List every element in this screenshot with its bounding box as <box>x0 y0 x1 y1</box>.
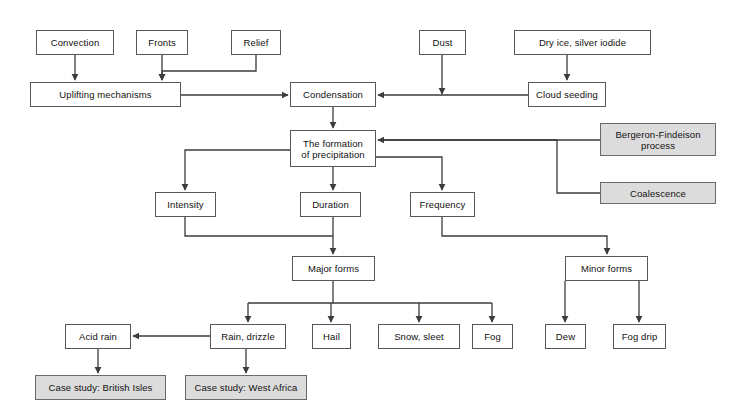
flowchart-canvas: ConvectionFrontsReliefDustDry ice, silve… <box>0 0 743 416</box>
node-label-intensity: Intensity <box>164 199 206 210</box>
node-label-minor-forms: Minor forms <box>578 263 635 274</box>
node-case-british[interactable]: Case study: British Isles <box>35 375 166 400</box>
edge-formation-to-intensity <box>185 150 290 190</box>
node-label-dust: Dust <box>430 37 456 48</box>
edge-relief-to-uplifting <box>162 55 256 80</box>
node-convection[interactable]: Convection <box>36 30 114 55</box>
node-label-acid-rain: Acid rain <box>76 331 120 342</box>
node-major-forms[interactable]: Major forms <box>292 256 375 281</box>
node-intensity[interactable]: Intensity <box>155 192 216 217</box>
node-fog-drip[interactable]: Fog drip <box>613 324 666 349</box>
node-formation[interactable]: The formationof precipitation <box>290 130 376 167</box>
node-label-uplifting: Uplifting mechanisms <box>56 89 154 100</box>
edge-frequency-to-minorforms <box>442 217 607 254</box>
node-cloud-seed[interactable]: Cloud seeding <box>528 82 606 107</box>
node-label-frequency: Frequency <box>417 199 469 210</box>
connector-layer <box>0 0 743 416</box>
node-rain-drizzle[interactable]: Rain, drizzle <box>210 324 286 349</box>
edge-formation-to-frequency <box>376 157 442 190</box>
edge-intensity-to-majorforms <box>185 217 333 236</box>
node-coalescence[interactable]: Coalescence <box>600 182 716 204</box>
node-label-fronts: Fronts <box>145 37 179 48</box>
node-duration[interactable]: Duration <box>300 192 361 217</box>
node-label-bergeron: Bergeron-Findeisonprocess <box>612 129 703 151</box>
node-hail[interactable]: Hail <box>312 324 351 349</box>
node-label-condensation: Condensation <box>300 89 366 100</box>
node-label-duration: Duration <box>309 199 352 210</box>
node-relief[interactable]: Relief <box>231 30 281 55</box>
node-dust[interactable]: Dust <box>419 30 466 55</box>
node-label-case-africa: Case study: West Africa <box>192 382 301 393</box>
node-fog[interactable]: Fog <box>472 324 513 349</box>
node-label-fog-drip: Fog drip <box>619 331 661 342</box>
node-label-relief: Relief <box>241 37 272 48</box>
node-snow-sleet[interactable]: Snow, sleet <box>378 324 460 349</box>
node-label-rain-drizzle: Rain, drizzle <box>218 331 278 342</box>
node-label-hail: Hail <box>320 331 343 342</box>
node-fronts[interactable]: Fronts <box>136 30 188 55</box>
node-case-africa[interactable]: Case study: West Africa <box>185 375 307 400</box>
node-label-dry-ice: Dry ice, silver iodide <box>536 37 629 48</box>
node-condensation[interactable]: Condensation <box>290 82 376 107</box>
node-label-cloud-seed: Cloud seeding <box>533 89 601 100</box>
node-bergeron[interactable]: Bergeron-Findeisonprocess <box>600 123 716 156</box>
node-label-fog: Fog <box>481 331 504 342</box>
node-uplifting[interactable]: Uplifting mechanisms <box>30 82 181 107</box>
edge-coalescence-to-formation <box>380 140 600 193</box>
node-minor-forms[interactable]: Minor forms <box>565 256 648 281</box>
node-frequency[interactable]: Frequency <box>410 192 475 217</box>
node-label-coalescence: Coalescence <box>627 188 689 199</box>
node-label-dew: Dew <box>553 331 578 342</box>
node-label-case-british: Case study: British Isles <box>46 382 156 393</box>
node-label-convection: Convection <box>48 37 103 48</box>
node-dry-ice[interactable]: Dry ice, silver iodide <box>514 30 651 55</box>
node-dew[interactable]: Dew <box>545 324 586 349</box>
node-label-major-forms: Major forms <box>305 263 362 274</box>
node-label-snow-sleet: Snow, sleet <box>391 331 447 342</box>
node-acid-rain[interactable]: Acid rain <box>65 324 131 349</box>
node-label-formation: The formationof precipitation <box>298 138 367 160</box>
